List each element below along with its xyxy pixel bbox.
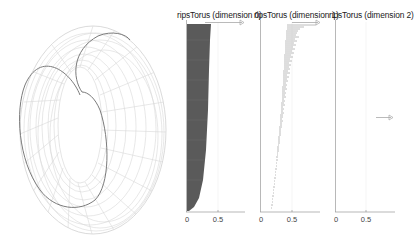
dim2-xtick-0: 0: [334, 215, 338, 224]
barcode-panel-dim2: [335, 20, 395, 212]
dim0-bars: [187, 24, 211, 211]
dim0-xtick-0: 0: [185, 215, 189, 224]
barcode-panel-dim0: [186, 20, 245, 212]
dim1-xtick-05: 0.5: [287, 215, 297, 224]
dim0-xtick-05: 0.5: [213, 215, 223, 224]
dim1-bars: [271, 25, 316, 208]
barcode-panel-dim1: [260, 20, 320, 212]
barcode-plots: [0, 0, 417, 242]
dim1-xtick-0: 0: [259, 215, 263, 224]
dim2-xtick-05: 0.5: [361, 215, 371, 224]
